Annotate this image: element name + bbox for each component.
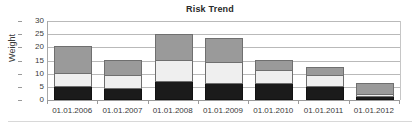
x-axis-label-01.01.2007: 01.01.2007 — [94, 106, 150, 115]
bar-segment-high[interactable] — [155, 34, 193, 60]
bottom-divider — [8, 121, 412, 122]
y-tick-label-30: 30 — [22, 17, 44, 25]
bar-segment-high[interactable] — [255, 60, 293, 72]
y-axis-label: Weight — [7, 20, 17, 76]
x-tick-mark — [47, 100, 48, 104]
y-tick-label-25: 25 — [22, 30, 44, 38]
y-tick-mark-10 — [18, 74, 22, 75]
bar-segment-high[interactable] — [306, 67, 344, 76]
x-tick-mark — [298, 100, 299, 104]
bar-01.01.2010[interactable] — [255, 21, 293, 100]
x-axis-label-01.01.2006: 01.01.2006 — [44, 106, 100, 115]
bar-segment-medium[interactable] — [205, 62, 243, 84]
y-tick-label-15: 15 — [22, 57, 44, 65]
y-tick-label-5: 5 — [22, 83, 44, 91]
bar-01.01.2006[interactable] — [54, 21, 92, 100]
x-axis-label-01.01.2008: 01.01.2008 — [145, 106, 201, 115]
y-tick-label-20: 20 — [22, 43, 44, 51]
y-tick-mark-5 — [18, 87, 22, 88]
bar-segment-medium[interactable] — [306, 75, 344, 87]
x-tick-mark — [349, 100, 350, 104]
bar-01.01.2008[interactable] — [155, 21, 193, 100]
y-tick-mark-30 — [18, 21, 22, 22]
x-axis-label-01.01.2011: 01.01.2011 — [296, 106, 352, 115]
y-tick-mark-25 — [18, 34, 22, 35]
bar-segment-high[interactable] — [205, 38, 243, 63]
x-tick-mark — [97, 100, 98, 104]
bar-segment-low[interactable] — [306, 86, 344, 100]
bar-segment-medium[interactable] — [54, 73, 92, 87]
bar-01.01.2007[interactable] — [104, 21, 142, 100]
bar-segment-high[interactable] — [104, 60, 142, 77]
bar-01.01.2012[interactable] — [356, 21, 394, 100]
bar-segment-low[interactable] — [104, 88, 142, 100]
bar-segment-high[interactable] — [356, 83, 394, 95]
plot-area — [47, 21, 400, 100]
bar-segment-high[interactable] — [54, 46, 92, 73]
y-tick-mark-0 — [18, 100, 22, 101]
plot-right-edge — [400, 21, 401, 100]
bar-segment-low[interactable] — [205, 83, 243, 100]
y-tick-label-10: 10 — [22, 70, 44, 78]
bar-segment-low[interactable] — [255, 83, 293, 100]
risk-trend-chart: Risk Trend Weight 302520151050 01.01.200… — [0, 0, 420, 127]
x-axis-label-01.01.2012: 01.01.2012 — [346, 106, 402, 115]
x-tick-mark — [248, 100, 249, 104]
x-tick-mark — [399, 100, 400, 104]
x-tick-mark — [198, 100, 199, 104]
x-axis: 01.01.200601.01.200701.01.200801.01.2009… — [47, 100, 399, 122]
bar-segment-medium[interactable] — [155, 60, 193, 82]
y-tick-label-0: 0 — [22, 96, 44, 104]
bar-segment-medium[interactable] — [104, 75, 142, 89]
bar-segment-medium[interactable] — [255, 70, 293, 84]
bar-segment-low[interactable] — [54, 86, 92, 100]
x-tick-mark — [148, 100, 149, 104]
bar-01.01.2011[interactable] — [306, 21, 344, 100]
bar-01.01.2009[interactable] — [205, 21, 243, 100]
x-axis-label-01.01.2009: 01.01.2009 — [195, 106, 251, 115]
y-tick-mark-15 — [18, 61, 22, 62]
y-tick-mark-20 — [18, 47, 22, 48]
chart-title: Risk Trend — [0, 4, 420, 14]
x-axis-label-01.01.2010: 01.01.2010 — [245, 106, 301, 115]
bar-segment-low[interactable] — [155, 81, 193, 100]
